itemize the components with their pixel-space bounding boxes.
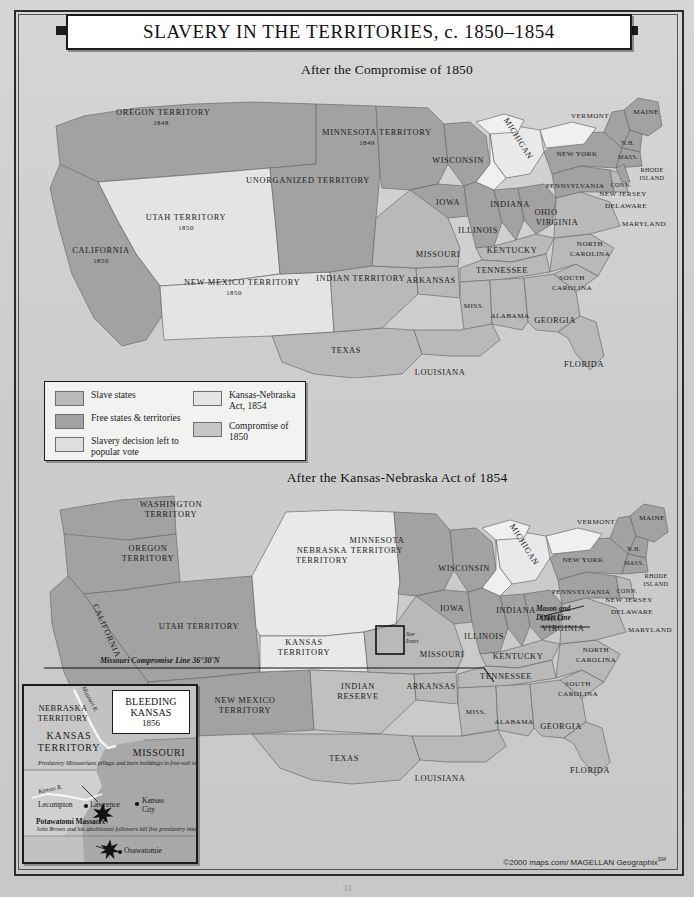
legend-label-slave-states: Slave states: [91, 390, 136, 401]
bleeding-kansas-inset: BLEEDING KANSAS 1856 NEBRASKATERRITORY K…: [22, 684, 198, 864]
inset-note-potawatomi-title: Potawatomi Massacre: [36, 817, 105, 826]
label-see-inset: SeeInset: [406, 630, 446, 644]
legend-swatch-kansas-nebraska-act: [193, 391, 222, 406]
label-vermont-2: VERMONT: [566, 518, 626, 528]
legend-column-2: Kansas-Nebraska Act, 1854 Compromise of …: [193, 390, 303, 449]
label-massachusetts-2: MASS.: [614, 558, 654, 568]
label-texas: TEXAS: [316, 346, 376, 356]
label-iowa: IOWA: [418, 198, 478, 208]
inset-label-missouri: MISSOURI: [124, 748, 194, 758]
label-texas-2: TEXAS: [314, 754, 374, 764]
map-credit-text: ©2000 maps.com/ MAGELLAN Geographix: [503, 858, 657, 867]
label-mason-dixon-line: Mason andDixon Line: [536, 604, 596, 622]
label-indian-territory: INDIAN TERRITORY: [316, 274, 398, 284]
inset-note-potawatomi-body: John Brown and his abolitionist follower…: [36, 826, 116, 833]
label-tennessee: TENNESSEE: [464, 266, 540, 276]
map-credit-servicemark: SM: [658, 856, 666, 862]
inset-note-potawatomi: Potawatomi Massacre John Brown and his a…: [36, 818, 116, 833]
top-map-subtitle: After the Compromise of 1850: [24, 62, 670, 78]
label-maine: MAINE: [622, 108, 670, 118]
label-rhode-island: RHODEISLAND: [628, 166, 676, 181]
label-missouri-compromise-line: Missouri Compromise Line 36°30'N: [100, 656, 430, 666]
label-florida: FLORIDA: [554, 360, 614, 370]
label-utah-territory-2: UTAH TERRITORY: [144, 622, 254, 632]
label-vermont: VERMONT: [560, 112, 620, 122]
legend-item-kansas-nebraska-act: Kansas-Nebraska Act, 1854: [193, 390, 303, 411]
map-credit: ©2000 maps.com/ MAGELLAN GeographixSM: [503, 856, 666, 867]
label-minnesota-territory: MINNESOTA TERRITORY 1849: [322, 128, 412, 148]
page-number: 33: [0, 883, 694, 893]
label-north-carolina-2: NORTHCAROLINA: [568, 646, 624, 665]
inset-title-line1: BLEEDING: [125, 696, 177, 707]
label-mississippi-2: MISS.: [454, 708, 498, 718]
label-unorganized-territory: UNORGANIZED TERRITORY: [246, 176, 346, 186]
inset-city-kansas-city: KansasCity: [142, 796, 182, 814]
label-oregon-territory-2: OREGONTERRITORY: [100, 544, 196, 564]
label-louisiana: LOUISIANA: [402, 368, 478, 378]
label-north-carolina: NORTHCAROLINA: [562, 240, 618, 259]
label-delaware-2: DELAWARE: [602, 608, 662, 618]
label-georgia-2: GEORGIA: [530, 722, 592, 732]
legend-swatch-compromise-1850: [193, 422, 222, 437]
inset-title-year: 1856: [142, 718, 160, 728]
label-ohio: OHIO: [520, 208, 572, 218]
label-mississippi: MISS.: [452, 302, 496, 312]
label-kentucky: KENTUCKY: [476, 246, 548, 256]
label-wisconsin: WISCONSIN: [422, 156, 494, 166]
label-kentucky-2: KENTUCKY: [482, 652, 554, 662]
label-new-york: NEW YORK: [542, 150, 612, 160]
legend-swatch-popular-vote: [55, 437, 84, 452]
legend-label-kansas-nebraska-act: Kansas-Nebraska Act, 1854: [229, 390, 303, 411]
legend-item-slave-states: Slave states: [55, 390, 185, 406]
label-new-hampshire-2: N.H.: [616, 544, 652, 554]
label-south-carolina: SOUTHCAROLINA: [544, 274, 600, 293]
legend-column-1: Slave states Free states & territories S…: [55, 390, 185, 464]
label-virginia: VIRGINIA: [524, 218, 590, 228]
label-wisconsin-2: WISCONSIN: [428, 564, 500, 574]
label-utah-territory: UTAH TERRITORY 1850: [136, 213, 236, 233]
inset-label-nebraska-territory: NEBRASKATERRITORY: [28, 704, 98, 723]
label-iowa-2: IOWA: [422, 604, 482, 614]
top-map-panel: OREGON TERRITORY 1848 UTAH TERRITORY 185…: [24, 78, 670, 378]
label-louisiana-2: LOUISIANA: [402, 774, 478, 784]
label-massachusetts: MASS.: [608, 152, 648, 162]
legend-label-compromise-1850: Compromise of 1850: [229, 421, 303, 442]
label-tennessee-2: TENNESSEE: [468, 672, 544, 682]
label-arkansas: ARKANSAS: [396, 276, 466, 286]
legend-item-free-states: Free states & territories: [55, 413, 185, 429]
label-maine-2: MAINE: [628, 514, 676, 524]
label-oregon-territory: OREGON TERRITORY 1848: [116, 108, 206, 128]
bottom-map-subtitle: After the Kansas-Nebraska Act of 1854: [24, 470, 670, 486]
map-title-plaque: SLAVERY IN THE TERRITORIES, c. 1850–1854: [66, 14, 632, 50]
label-florida-2: FLORIDA: [560, 766, 620, 776]
legend-label-popular-vote: Slavery decision left to popular vote: [91, 436, 185, 457]
label-kansas-territory: KANSASTERRITORY: [256, 638, 352, 658]
inset-city-lawrence: Lawrence: [90, 800, 120, 809]
label-maryland-2: MARYLAND: [618, 626, 682, 636]
label-new-mexico-territory: NEW MEXICO TERRITORY 1850: [184, 278, 284, 298]
label-indian-reserve: INDIANRESERVE: [316, 682, 400, 702]
label-california: CALIFORNIA 1850: [58, 246, 144, 266]
legend-item-popular-vote: Slavery decision left to popular vote: [55, 436, 185, 457]
label-new-hampshire: N.H.: [610, 138, 646, 148]
inset-title-box: BLEEDING KANSAS 1856: [112, 690, 190, 734]
label-arkansas-2: ARKANSAS: [396, 682, 466, 692]
legend-label-free-states: Free states & territories: [91, 413, 180, 424]
label-connecticut: CONN.: [602, 180, 640, 190]
label-georgia: GEORGIA: [524, 316, 586, 326]
legend-swatch-free-states: [55, 414, 84, 429]
label-connecticut-2: CONN.: [608, 586, 646, 596]
legend-swatch-slave-states: [55, 391, 84, 406]
label-delaware: DELAWARE: [596, 202, 656, 212]
inset-label-kansas-territory: KANSASTERRITORY: [30, 730, 108, 754]
map-page: SLAVERY IN THE TERRITORIES, c. 1850–1854…: [0, 0, 694, 897]
label-illinois: ILLINOIS: [446, 226, 510, 236]
label-new-mexico-territory-2: NEW MEXICOTERRITORY: [190, 696, 300, 716]
label-rhode-island-2: RHODEISLAND: [632, 572, 680, 587]
inset-city-lecompton: Lecompton: [38, 800, 73, 809]
label-south-carolina-2: SOUTHCAROLINA: [550, 680, 606, 699]
map-title: SLAVERY IN THE TERRITORIES, c. 1850–1854: [143, 21, 555, 43]
label-minnesota-territory-2: MINNESOTATERRITORY: [330, 536, 424, 556]
label-missouri: MISSOURI: [402, 250, 474, 260]
inset-city-osawatomie: Osawatomie: [124, 846, 162, 855]
